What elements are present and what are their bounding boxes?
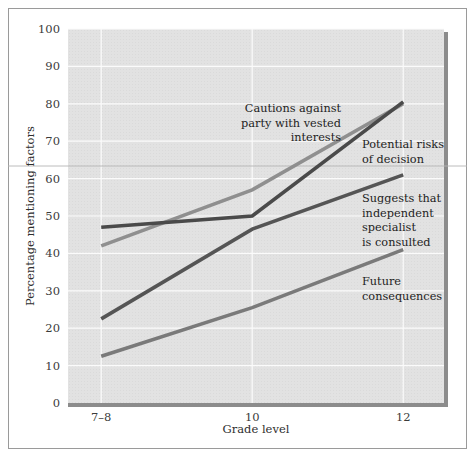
y-tick-label-20: 20 (45, 321, 60, 335)
x-tick-label-2: 12 (396, 410, 411, 424)
y-tick-label-0: 0 (53, 396, 60, 410)
y-tick-label-10: 10 (45, 359, 60, 373)
line-chart: 0102030405060708090100 7–81012 Cautions … (0, 0, 475, 457)
y-tick-label-40: 40 (45, 246, 60, 260)
anno-future-consequences: Futureconsequences (362, 275, 442, 303)
anno-cautions: Cautions againstparty with vestedinteres… (241, 102, 341, 144)
anno-suggests-specialist: Suggests thatindependentspecialistis con… (362, 192, 441, 249)
y-axis-tick-labels: 0102030405060708090100 (38, 22, 60, 410)
y-tick-label-60: 60 (45, 172, 60, 186)
x-tick-label-0: 7–8 (91, 410, 111, 424)
y-tick-label-50: 50 (45, 209, 60, 223)
y-tick-label-80: 80 (45, 97, 60, 111)
y-tick-label-100: 100 (38, 22, 60, 36)
y-axis-title: Percentage mentioning factors (23, 126, 37, 306)
y-tick-label-70: 70 (45, 134, 60, 148)
x-axis-title: Grade level (223, 422, 290, 436)
chart-figure: 0102030405060708090100 7–81012 Cautions … (0, 0, 475, 457)
y-tick-label-30: 30 (45, 284, 60, 298)
anno-potential-risks: Potential risksof decision (362, 138, 444, 166)
y-tick-label-90: 90 (45, 59, 60, 73)
